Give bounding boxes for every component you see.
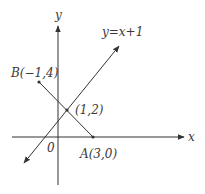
point-b-label: B(−1,4) xyxy=(10,66,59,80)
x-axis-label: x xyxy=(188,130,195,144)
point-a-label: A(3,0) xyxy=(79,147,117,161)
line-equation-label: y=x+1 xyxy=(101,25,143,39)
origin-label: 0 xyxy=(47,141,55,155)
coordinate-diagram: y x 0 y=x+1 B(−1,4) (1,2) A(3,0) xyxy=(0,0,205,194)
point-intersection-label: (1,2) xyxy=(75,103,104,117)
line-y-equals-x-plus-1 xyxy=(24,46,119,163)
point-b xyxy=(37,80,40,83)
point-intersection xyxy=(65,108,68,111)
y-axis-label: y xyxy=(54,8,62,22)
point-a xyxy=(91,135,94,138)
